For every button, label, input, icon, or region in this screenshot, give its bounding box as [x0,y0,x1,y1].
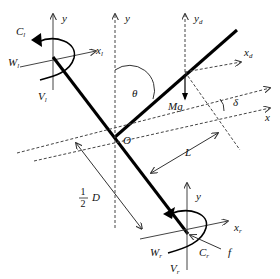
label-x-d: xd [243,46,253,60]
label-f: f [228,246,233,258]
label-theta: θ [132,87,138,99]
label-x: x [264,111,270,123]
label-D: D [91,191,100,203]
pendulum-bar [115,30,237,137]
label-O: O [123,134,131,146]
label-V-r: Vr [170,262,180,276]
label-W-r: Wr [150,246,162,260]
label-half-numerator: 1 [81,186,86,197]
label-x-r: xr [233,221,242,235]
label-y-center: y [124,12,130,24]
half-D-dimension-arrow [76,143,142,229]
label-C-l: Cl [16,25,25,39]
label-delta: δ [233,96,239,108]
label-W-l: Wl [8,56,19,70]
label-V-l: Vl [38,90,47,104]
x-axis [34,108,270,161]
label-y-left: y [61,12,67,24]
label-x-l: xl [95,44,103,58]
label-C-r: Cr [199,246,209,260]
left-torque-arrowhead [31,33,42,47]
label-Mg: Mg [167,100,183,112]
right-x-axis [140,221,228,239]
label-half-denominator: 2 [81,198,86,209]
free-body-diagram: y xl Cl Wl Vl y θ yd xd Mg x δ O L 1 2 D… [0,0,280,279]
main-body-bar [53,57,188,234]
label-L: L [184,146,191,158]
perpendicular-dashed-line [185,72,240,150]
label-y-d: yd [193,12,203,26]
label-y-right: y [195,190,201,202]
